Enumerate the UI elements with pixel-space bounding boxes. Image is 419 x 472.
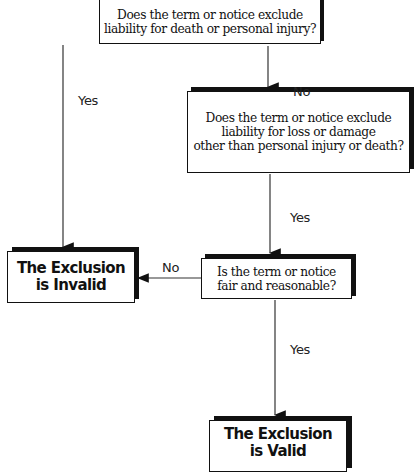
edge-label-q3-yes: Yes <box>290 342 310 357</box>
edge-label-q1-yes: Yes <box>78 93 98 108</box>
question-fair-reasonable-box: Is the term or notice fair and reasonabl… <box>201 258 352 299</box>
result-invalid-box: The Exclusion is Invalid <box>7 251 135 303</box>
invalid-line: is Invalid <box>17 277 125 294</box>
q1-line: liability for death or personal injury? <box>104 22 316 36</box>
invalid-line: The Exclusion <box>17 260 125 277</box>
q2-line: other than personal injury or death? <box>193 139 403 153</box>
valid-line: The Exclusion <box>224 426 332 443</box>
question-loss-damage-box: Does the term or notice exclude liabilit… <box>187 91 410 173</box>
q1-line: Does the term or notice exclude <box>104 8 316 22</box>
q2-line: Does the term or notice exclude <box>193 111 403 125</box>
valid-line: is Valid <box>224 443 332 460</box>
result-valid-box: The Exclusion is Valid <box>209 420 347 472</box>
edge-label-q3-no: No <box>162 260 179 275</box>
q3-line: fair and reasonable? <box>217 279 336 293</box>
edge-label-q1-no: No <box>293 84 310 99</box>
edge-label-q2-yes: Yes <box>290 210 310 225</box>
q3-line: Is the term or notice <box>217 265 336 279</box>
q2-line: liability for loss or damage <box>193 125 403 139</box>
question-death-injury-box: Does the term or notice exclude liabilit… <box>99 0 321 44</box>
